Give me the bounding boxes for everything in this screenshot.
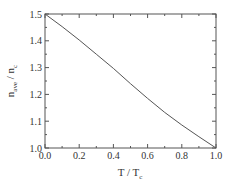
y-axis-ticks: 1.01.11.21.31.41.5 bbox=[30, 9, 217, 154]
chart: 0.00.20.40.60.81.0 1.01.11.21.31.41.5 T … bbox=[0, 0, 233, 193]
x-tick-label: 0.4 bbox=[107, 150, 120, 161]
y-tick-label: 1.4 bbox=[30, 35, 43, 46]
x-tick-label: 0.2 bbox=[73, 150, 86, 161]
y-tick-label: 1.5 bbox=[30, 9, 43, 20]
x-tick-label: 0.6 bbox=[141, 150, 154, 161]
plot-frame bbox=[45, 14, 216, 148]
y-tick-label: 1.0 bbox=[30, 143, 43, 154]
data-series bbox=[45, 14, 216, 148]
y-axis-title: nave / nc bbox=[4, 65, 19, 97]
y-tick-label: 1.3 bbox=[30, 62, 43, 73]
x-axis-ticks: 0.00.20.40.60.81.0 bbox=[39, 14, 223, 161]
x-axis-title: T / Tc bbox=[118, 166, 143, 181]
x-tick-label: 0.8 bbox=[176, 150, 189, 161]
y-tick-label: 1.2 bbox=[30, 89, 43, 100]
series-line bbox=[45, 14, 216, 148]
y-tick-label: 1.1 bbox=[30, 116, 43, 127]
plot-area-border bbox=[45, 14, 216, 148]
x-tick-label: 1.0 bbox=[210, 150, 223, 161]
